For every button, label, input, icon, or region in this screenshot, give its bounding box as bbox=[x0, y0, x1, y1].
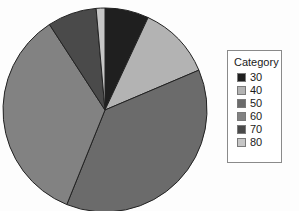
legend-title: Category bbox=[228, 56, 281, 68]
legend-color-swatch bbox=[237, 125, 246, 134]
legend-item[interactable]: 50 bbox=[237, 97, 281, 110]
legend-color-swatch bbox=[237, 112, 246, 121]
legend-item-label: 40 bbox=[250, 85, 262, 96]
chart-legend: Category 304050607080 bbox=[227, 50, 282, 163]
legend-item[interactable]: 60 bbox=[237, 110, 281, 123]
legend-item-label: 70 bbox=[250, 124, 262, 135]
legend-item-list: 304050607080 bbox=[228, 71, 281, 149]
legend-item[interactable]: 40 bbox=[237, 84, 281, 97]
legend-color-swatch bbox=[237, 86, 246, 95]
legend-item[interactable]: 30 bbox=[237, 71, 281, 84]
legend-color-swatch bbox=[237, 73, 246, 82]
legend-item-label: 60 bbox=[250, 111, 262, 122]
pie-chart-figure: Category 304050607080 bbox=[0, 0, 299, 211]
legend-item-label: 80 bbox=[250, 137, 262, 148]
legend-item-label: 30 bbox=[250, 72, 262, 83]
legend-color-swatch bbox=[237, 99, 246, 108]
legend-item[interactable]: 70 bbox=[237, 123, 281, 136]
legend-item[interactable]: 80 bbox=[237, 136, 281, 149]
pie-slice-group bbox=[3, 8, 207, 211]
legend-item-label: 50 bbox=[250, 98, 262, 109]
legend-color-swatch bbox=[237, 138, 246, 147]
